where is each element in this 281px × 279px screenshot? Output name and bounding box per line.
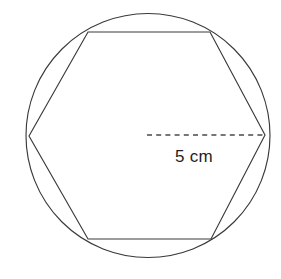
- geometry-figure: 5 cm: [0, 0, 281, 279]
- radius-measurement-label: 5 cm: [175, 147, 213, 166]
- geometry-canvas: 5 cm: [0, 0, 281, 279]
